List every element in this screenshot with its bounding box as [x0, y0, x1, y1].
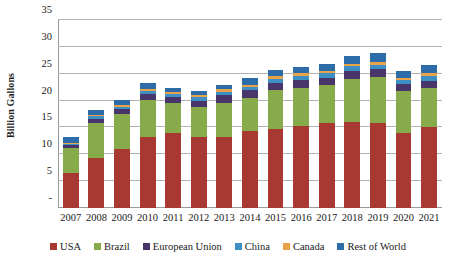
bar-segment: [114, 149, 130, 208]
x-axis-tick-label: 2008: [84, 209, 110, 227]
bar-segment: [63, 173, 79, 208]
bar-group: [58, 20, 442, 208]
bar-segment: [370, 77, 386, 123]
bar-segment: [344, 71, 360, 79]
chart-legend: USABrazilEuropean UnionChinaCanadaRest o…: [0, 236, 456, 256]
legend-swatch-icon: [337, 243, 344, 250]
legend-label: China: [245, 241, 270, 252]
bar-segment: [268, 83, 284, 91]
bar-segment: [319, 85, 335, 123]
bar-slot: [288, 20, 314, 208]
bar-segment: [165, 103, 181, 133]
legend-label: Canada: [293, 241, 325, 252]
ethanol-production-stacked-bar-chart: Billion Gallons -5101520253035 200720082…: [0, 0, 456, 264]
legend-item[interactable]: Rest of World: [337, 241, 405, 252]
stacked-bar[interactable]: [114, 100, 130, 208]
bar-segment: [421, 81, 437, 88]
legend-item[interactable]: European Union: [143, 241, 222, 252]
stacked-bar[interactable]: [344, 56, 360, 208]
bar-segment: [344, 122, 360, 208]
legend-item[interactable]: USA: [50, 241, 81, 252]
bar-slot: [58, 20, 84, 208]
bar-slot: [416, 20, 442, 208]
bar-segment: [242, 98, 258, 131]
bar-segment: [293, 126, 309, 208]
bar-segment: [191, 137, 207, 208]
legend-label: Brazil: [104, 241, 130, 252]
y-axis-tick-label: 25: [14, 59, 52, 69]
bar-slot: [340, 20, 366, 208]
bar-segment: [140, 137, 156, 208]
bar-segment: [396, 133, 412, 208]
bar-segment: [216, 95, 232, 103]
bar-slot: [263, 20, 289, 208]
x-axis-tick-label: 2011: [160, 209, 186, 227]
stacked-bar[interactable]: [421, 65, 437, 208]
plot-area: -5101520253035: [58, 20, 442, 208]
legend-swatch-icon: [50, 243, 57, 250]
bar-segment: [242, 131, 258, 208]
y-axis-title-label: Billion Gallons: [6, 72, 17, 137]
x-axis-tick-label: 2021: [416, 209, 442, 227]
stacked-bar[interactable]: [216, 85, 232, 209]
bar-segment: [370, 123, 386, 208]
bar-slot: [314, 20, 340, 208]
bar-segment: [63, 148, 79, 173]
stacked-bar[interactable]: [370, 53, 386, 208]
stacked-bar[interactable]: [319, 64, 335, 208]
x-axis-tick-label: 2017: [314, 209, 340, 227]
bar-segment: [165, 133, 181, 208]
y-axis-tick-label: 15: [14, 112, 52, 122]
bar-slot: [186, 20, 212, 208]
bar-segment: [293, 80, 309, 88]
stacked-bar[interactable]: [165, 88, 181, 208]
legend-swatch-icon: [235, 243, 242, 250]
x-axis-ticks: 2007200820092010201120122013201420152016…: [58, 209, 442, 227]
legend-label: Rest of World: [347, 241, 405, 252]
stacked-bar[interactable]: [293, 67, 309, 208]
legend-swatch-icon: [283, 243, 290, 250]
stacked-bar[interactable]: [242, 78, 258, 208]
bar-slot: [365, 20, 391, 208]
x-axis-tick-label: 2009: [109, 209, 135, 227]
legend-item[interactable]: Brazil: [94, 241, 130, 252]
bar-segment: [88, 123, 104, 158]
bar-slot: [237, 20, 263, 208]
y-axis-tick-label: 35: [14, 5, 52, 15]
stacked-bar[interactable]: [140, 83, 156, 208]
bar-segment: [216, 103, 232, 137]
bar-segment: [396, 91, 412, 133]
stacked-bar[interactable]: [268, 70, 284, 208]
bar-segment: [421, 65, 437, 73]
bar-slot: [109, 20, 135, 208]
stacked-bar[interactable]: [191, 91, 207, 208]
y-axis-tick-label: 30: [14, 32, 52, 42]
bar-segment: [396, 71, 412, 79]
x-axis-tick-label: 2019: [365, 209, 391, 227]
bar-segment: [421, 88, 437, 128]
legend-item[interactable]: Canada: [283, 241, 325, 252]
bar-slot: [84, 20, 110, 208]
legend-swatch-icon: [143, 243, 150, 250]
stacked-bar[interactable]: [396, 71, 412, 208]
legend-label: USA: [60, 241, 81, 252]
x-axis-tick-label: 2010: [135, 209, 161, 227]
bar-segment: [140, 100, 156, 138]
stacked-bar[interactable]: [63, 137, 79, 208]
x-axis-tick-label: 2016: [288, 209, 314, 227]
bar-segment: [293, 88, 309, 126]
bar-slot: [135, 20, 161, 208]
legend-label: European Union: [153, 241, 222, 252]
stacked-bar[interactable]: [88, 110, 104, 208]
bar-segment: [319, 78, 335, 86]
bar-segment: [370, 69, 386, 77]
bar-segment: [370, 53, 386, 62]
x-axis-tick-label: 2020: [391, 209, 417, 227]
bar-segment: [242, 90, 258, 98]
x-axis-tick-label: 2018: [340, 209, 366, 227]
bar-segment: [88, 158, 104, 208]
x-axis-tick-label: 2015: [263, 209, 289, 227]
bar-segment: [344, 79, 360, 122]
x-axis-tick-label: 2014: [237, 209, 263, 227]
legend-item[interactable]: China: [235, 241, 270, 252]
